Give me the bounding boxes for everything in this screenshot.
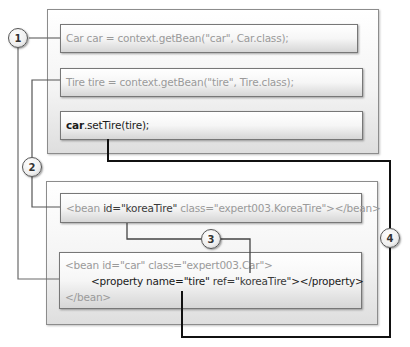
bean-tag-open: <bean: [66, 202, 103, 214]
marker-2: 2: [22, 157, 42, 177]
bean-car-close: </bean>: [65, 291, 111, 303]
property-tag-close: ></property>: [291, 275, 363, 287]
marker-3: 3: [201, 229, 221, 249]
bean-car-box: <bean id="car" class="expert003.Car"> <p…: [59, 252, 362, 309]
getbean-tire-code: Tire tire = context.getBean("tire", Tire…: [66, 76, 294, 88]
bean-id-koreatire: id="koreaTire": [103, 202, 177, 214]
property-ref-koreatire: ref="koreaTire": [210, 275, 292, 287]
bean-koreatire-code: <bean id="koreaTire" class="expert003.Ko…: [66, 202, 381, 214]
getbean-car-box: Car car = context.getBean("car", Car.cla…: [60, 24, 358, 53]
settire-code: car.setTire(tire);: [66, 119, 149, 131]
marker-1: 1: [8, 28, 28, 48]
marker-4: 4: [380, 228, 400, 248]
getbean-car-code: Car car = context.getBean("car", Car.cla…: [66, 32, 289, 44]
bean-koreatire-box: <bean id="koreaTire" class="expert003.Ko…: [60, 193, 362, 223]
settire-object: car: [66, 119, 84, 131]
bean-class-koreatire: class="expert003.KoreaTire"></bean>: [177, 202, 381, 214]
property-name-tire: "tire": [184, 275, 210, 287]
getbean-tire-box: Tire tire = context.getBean("tire", Tire…: [60, 68, 363, 97]
property-tire-line: <property name="tire" ref="koreaTire"></…: [91, 275, 364, 287]
property-tag: <property name=: [91, 275, 184, 287]
settire-call: .setTire(tire);: [84, 119, 149, 131]
settire-box: car.setTire(tire);: [60, 111, 363, 140]
bean-car-open: <bean id="car" class="expert003.Car">: [65, 259, 273, 271]
